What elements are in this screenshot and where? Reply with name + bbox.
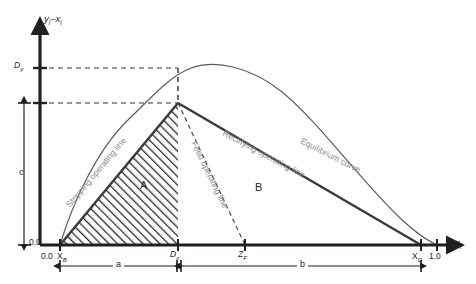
y-tick-label-zero: 0.0 — [29, 238, 41, 247]
x-tick-label-zf: ZF — [238, 250, 247, 261]
x-axis-title: xi — [455, 238, 461, 250]
x-axis-title-sub: i — [460, 243, 461, 250]
x-tick-label-xb-sub: B — [63, 256, 67, 263]
feed-operating-line-label: Feed operating line — [189, 139, 230, 210]
y-tick-label-dy: Dy — [14, 61, 23, 72]
y-axis-title-sub2: i — [60, 19, 61, 26]
dimension-b-label: b — [297, 260, 308, 269]
x-tick-label-xd-sub: D — [418, 256, 422, 263]
x-tick-label-xb: XB — [57, 252, 67, 263]
x-tick-label-dx-sub: x — [176, 254, 179, 261]
x-tick-label-xd: XD — [412, 252, 422, 263]
dimension-a-label: a — [113, 260, 124, 269]
chart-canvas: Equilibrium curve Stripping operating li… — [0, 0, 476, 284]
x-tick-label-zf-sub: F — [243, 254, 247, 261]
x-tick-label-origin: 0.0 — [41, 252, 53, 261]
x-tick-label-one: 1.0 — [429, 252, 441, 261]
y-tick-label-dy-sub: y — [20, 65, 23, 72]
distillation-diagram-figure: Equilibrium curve Stripping operating li… — [0, 0, 476, 284]
region-a-label: A — [140, 180, 147, 191]
region-b-label: B — [255, 182, 262, 193]
y-axis-title: yi–xi — [44, 14, 62, 26]
rectifying-operating-line-label: Rectifying operating line — [221, 128, 307, 180]
dimension-c-label: c — [19, 168, 24, 177]
x-tick-label-dx: Dx — [170, 250, 179, 261]
